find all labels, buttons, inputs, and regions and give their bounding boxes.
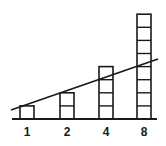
x-tick-label-3: 4 xyxy=(103,125,110,139)
chart-canvas: 1 2 4 8 xyxy=(0,0,166,146)
bar-chart-figure: 1 2 4 8 xyxy=(0,0,166,146)
x-tick-label-2: 2 xyxy=(64,125,71,139)
x-tick-label-1: 1 xyxy=(24,125,31,139)
x-tick-label-4: 8 xyxy=(141,125,148,139)
